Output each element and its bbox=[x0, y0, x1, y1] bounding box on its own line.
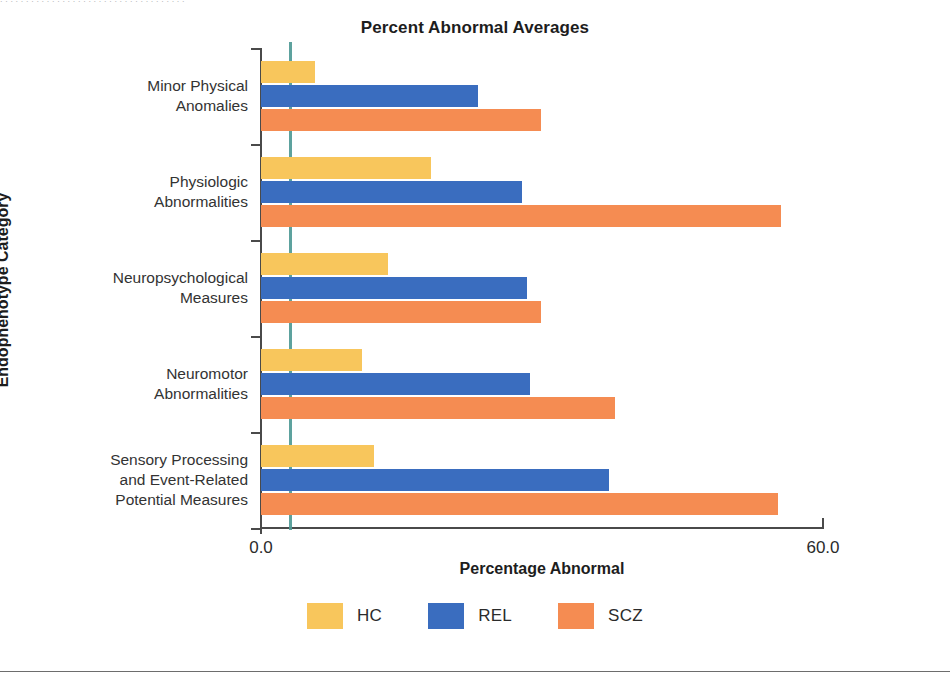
legend-item[interactable]: HC bbox=[307, 603, 382, 629]
chart-legend: HCRELSCZ bbox=[0, 603, 950, 629]
plot-area bbox=[261, 48, 823, 528]
bar-rel bbox=[261, 373, 530, 395]
legend-label: HC bbox=[357, 606, 382, 626]
x-axis-line bbox=[260, 527, 824, 529]
category-label-line: Physiologic bbox=[18, 172, 248, 192]
category-label-line: Neuromotor bbox=[18, 364, 248, 384]
bar-rel bbox=[261, 181, 522, 203]
y-tick-4 bbox=[251, 432, 261, 434]
x-tick-label-0: 0.0 bbox=[249, 538, 273, 558]
category-label-column: Minor PhysicalAnomaliesPhysiologicAbnorm… bbox=[0, 48, 248, 528]
category-label: PhysiologicAbnormalities bbox=[18, 172, 248, 212]
legend-swatch bbox=[307, 603, 343, 629]
legend-label: REL bbox=[478, 606, 512, 626]
x-tick-label-1: 60.0 bbox=[806, 538, 839, 558]
category-label-line: Anomalies bbox=[18, 96, 248, 116]
bar-hc bbox=[261, 61, 315, 83]
y-tick-1 bbox=[251, 144, 261, 146]
chart-title: Percent Abnormal Averages bbox=[0, 18, 950, 38]
bar-scz bbox=[261, 397, 615, 419]
category-label-line: and Event-Related bbox=[18, 470, 248, 490]
category-label-line: Neuropsychological bbox=[18, 268, 248, 288]
category-label-line: Abnormalities bbox=[18, 192, 248, 212]
bar-group bbox=[261, 253, 823, 323]
bar-group bbox=[261, 157, 823, 227]
x-axis-title: Percentage Abnormal bbox=[261, 560, 823, 578]
bar-hc bbox=[261, 349, 362, 371]
legend-swatch bbox=[428, 603, 464, 629]
y-tick-3 bbox=[251, 336, 261, 338]
category-label: Minor PhysicalAnomalies bbox=[18, 76, 248, 116]
category-label: NeuromotorAbnormalities bbox=[18, 364, 248, 404]
bar-group bbox=[261, 61, 823, 131]
bar-hc bbox=[261, 253, 388, 275]
bar-scz bbox=[261, 205, 781, 227]
y-tick-5 bbox=[251, 528, 261, 530]
category-label-line: Abnormalities bbox=[18, 384, 248, 404]
bar-scz bbox=[261, 493, 778, 515]
bar-group bbox=[261, 349, 823, 419]
legend-item[interactable]: SCZ bbox=[558, 603, 643, 629]
category-label-line: Minor Physical bbox=[18, 76, 248, 96]
bar-rel bbox=[261, 85, 478, 107]
y-tick-0 bbox=[251, 48, 261, 50]
bar-rel bbox=[261, 469, 609, 491]
bar-group bbox=[261, 445, 823, 515]
bar-rel bbox=[261, 277, 527, 299]
bar-scz bbox=[261, 301, 541, 323]
legend-item[interactable]: REL bbox=[428, 603, 512, 629]
legend-swatch bbox=[558, 603, 594, 629]
x-tick-max bbox=[822, 518, 824, 529]
category-label: Sensory Processingand Event-RelatedPoten… bbox=[18, 450, 248, 510]
bottom-divider bbox=[0, 671, 950, 672]
chart-figure: Percent Abnormal Averages Endophenotype … bbox=[0, 0, 950, 684]
legend-label: SCZ bbox=[608, 606, 643, 626]
category-label-line: Sensory Processing bbox=[18, 450, 248, 470]
category-label-line: Potential Measures bbox=[18, 490, 248, 510]
category-label: NeuropsychologicalMeasures bbox=[18, 268, 248, 308]
category-label-line: Measures bbox=[18, 288, 248, 308]
bar-scz bbox=[261, 109, 541, 131]
bar-hc bbox=[261, 445, 374, 467]
bar-hc bbox=[261, 157, 431, 179]
y-tick-2 bbox=[251, 240, 261, 242]
